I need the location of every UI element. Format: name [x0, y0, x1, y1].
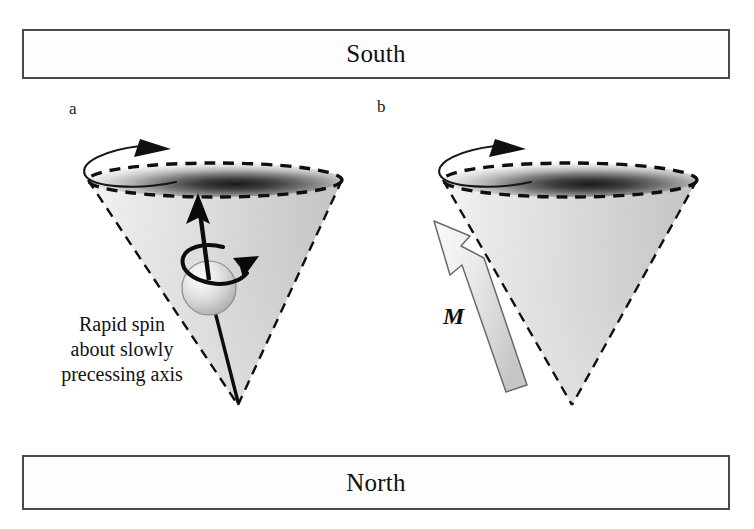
panel-b-group [434, 139, 697, 405]
north-pole-label: North [346, 469, 405, 497]
precession-arrowhead-b [489, 139, 526, 157]
panel-b-letter: b [377, 97, 386, 117]
precession-diagram-svg [0, 0, 754, 529]
precession-arrowhead-a [134, 139, 171, 157]
north-pole-box: North [22, 455, 730, 510]
caption-line-2: about slowly [22, 337, 222, 362]
caption-line-1: Rapid spin [22, 312, 222, 337]
panel-a-letter: a [69, 99, 77, 119]
panel-a-caption: Rapid spin about slowly precessing axis [22, 312, 222, 387]
caption-line-3: precessing axis [22, 362, 222, 387]
magnetization-vector-label: M [443, 303, 464, 330]
figure-canvas: South [0, 0, 754, 529]
